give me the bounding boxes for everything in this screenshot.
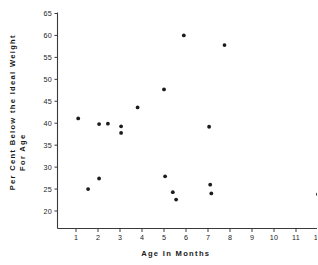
data-point [162, 88, 166, 92]
scatter-plot-canvas: 20253035404550556065 123456789101112 Age… [0, 0, 317, 265]
y-axis-tick-label: 25 [44, 185, 52, 194]
x-axis-tick-label: 5 [162, 233, 166, 242]
x-axis-tick-label: 9 [250, 233, 254, 242]
data-point [163, 174, 167, 178]
y-axis-tick-label: 65 [44, 9, 52, 18]
data-point [316, 192, 317, 196]
data-points-layer [76, 34, 317, 202]
x-axis-tick-label: 12 [314, 233, 317, 242]
x-axis-tick-label: 1 [74, 233, 78, 242]
x-axis-tick-label: 7 [206, 233, 210, 242]
x-axis-tick-label: 10 [270, 233, 278, 242]
data-point [76, 116, 80, 120]
y-axis-title-line2: For Age [18, 133, 27, 171]
x-axis-tick-label: 8 [228, 233, 232, 242]
data-point [106, 122, 110, 126]
x-axis-tick-label: 11 [292, 233, 300, 242]
data-point [119, 124, 123, 128]
x-axis-tick-label: 3 [118, 233, 122, 242]
data-point [97, 177, 101, 181]
data-point [136, 106, 140, 110]
y-axis-tick-label: 20 [44, 207, 52, 216]
data-point [171, 190, 175, 194]
y-axis-tick-label: 35 [44, 141, 52, 150]
data-point [86, 187, 90, 191]
y-axis-tick-label: 55 [44, 53, 52, 62]
y-axis-tick-label: 60 [44, 31, 52, 40]
x-axis-tick-label: 2 [96, 233, 100, 242]
data-point [174, 198, 178, 202]
y-axis-tick-label: 45 [44, 97, 52, 106]
y-axis-tick-label: 40 [44, 119, 52, 128]
data-point [208, 183, 212, 187]
y-axis-title-line1: Per Cent Below the Ideal Weight [8, 34, 17, 190]
x-axis-tick-label: 6 [184, 233, 188, 242]
x-axis-tick-label: 4 [140, 233, 144, 242]
x-axis-title: Age In Months [141, 249, 210, 258]
data-point [223, 43, 227, 47]
data-point [97, 122, 101, 126]
data-point [207, 125, 211, 129]
y-axis-tick-label: 30 [44, 163, 52, 172]
y-axis-tick-label: 50 [44, 75, 52, 84]
data-point [119, 131, 123, 135]
data-point [209, 192, 213, 196]
y-axis: 20253035404550556065 [44, 9, 58, 228]
data-point [182, 34, 186, 38]
axis-titles-layer: Age In MonthsPer Cent Below the Ideal We… [8, 34, 210, 257]
x-axis: 123456789101112 [58, 229, 318, 243]
scatter-chart-figure: 20253035404550556065 123456789101112 Age… [0, 0, 317, 265]
